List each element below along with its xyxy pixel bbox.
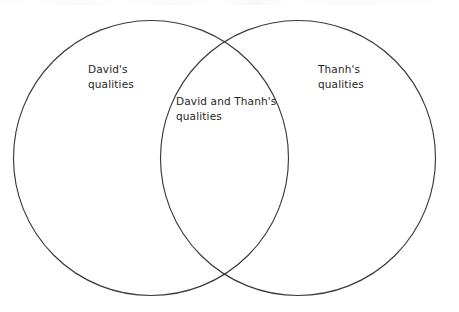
venn-circle-left[interactable] <box>14 21 289 296</box>
venn-label-left-region: David's qualities <box>88 62 134 92</box>
venn-diagram-page: David's qualities David and Thanh's qual… <box>0 0 459 312</box>
venn-label-right-region: Thanh's qualities <box>318 62 364 92</box>
venn-circle-right[interactable] <box>161 21 436 296</box>
venn-label-intersection-region: David and Thanh's qualities <box>176 94 276 124</box>
venn-diagram-canvas <box>0 0 459 312</box>
